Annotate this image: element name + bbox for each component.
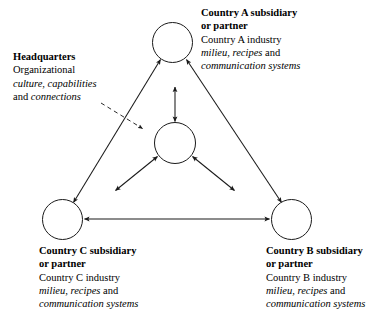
caption-country-a: Country A subsidiary or partner Country … [201,6,300,73]
country-a-heading-line2: or partner [201,19,300,32]
country-c-terms-italic: milieu, recipes [39,285,100,296]
node-country-a[interactable] [152,22,193,63]
country-a-heading-line1: Country A subsidiary [201,6,300,19]
node-center-hub[interactable] [154,122,196,164]
headquarters-line-culture-capabilities: culture, capabilities [13,77,97,90]
country-c-terms: milieu, recipes and [39,284,138,297]
headquarters-heading: Headquarters [13,50,97,63]
caption-country-b: Country B subsidiary or partner Country … [266,244,365,311]
country-c-heading-line2: or partner [39,257,138,270]
country-b-heading-line2: or partner [266,257,365,270]
edge-center-hub-to-country-c [116,157,158,191]
country-a-terms-italic: milieu, recipes [201,47,262,58]
headquarters-and-prefix: and [13,91,31,102]
caption-headquarters: Headquarters Organizational culture, cap… [13,50,97,103]
headquarters-line-connections: and connections [13,90,97,103]
country-c-terms-conjunction: and [100,285,118,296]
country-c-heading-line1: Country C subsidiary [39,244,138,257]
country-b-terms-italic: milieu, recipes [266,285,327,296]
country-a-industry: Country A industry [201,33,300,46]
country-a-terms-conjunction: and [262,47,280,58]
edge-country-a-to-country-b [187,60,282,203]
country-b-heading-line1: Country B subsidiary [266,244,365,257]
node-country-c[interactable] [42,199,83,240]
country-a-communication-systems: communication systems [201,59,300,72]
country-c-industry: Country C industry [39,271,138,284]
country-b-industry: Country B industry [266,271,365,284]
headquarters-connections-term: connections [31,91,81,102]
country-c-communication-systems: communication systems [39,297,138,310]
headquarters-line-organizational: Organizational [13,63,97,76]
country-b-communication-systems: communication systems [266,297,365,310]
network-diagram-figure: Headquarters Organizational culture, cap… [0,0,381,326]
node-country-b[interactable] [271,199,312,240]
country-b-terms: milieu, recipes and [266,284,365,297]
edge-center-hub-to-country-b [193,157,235,191]
edge-headquarters-to-center-hub [101,103,143,129]
caption-country-c: Country C subsidiary or partner Country … [39,244,138,311]
country-a-terms: milieu, recipes and [201,46,300,59]
country-b-terms-conjunction: and [327,285,345,296]
